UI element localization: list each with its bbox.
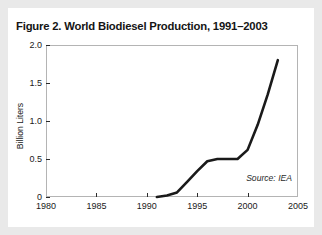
- line-chart: Billion Liters 00.51.01.52.0 19801985199…: [8, 8, 314, 227]
- source-note: Source: IEA: [204, 173, 292, 183]
- figure-card: Figure 2. World Biodiesel Production, 19…: [8, 8, 314, 227]
- series-layer: [8, 8, 314, 227]
